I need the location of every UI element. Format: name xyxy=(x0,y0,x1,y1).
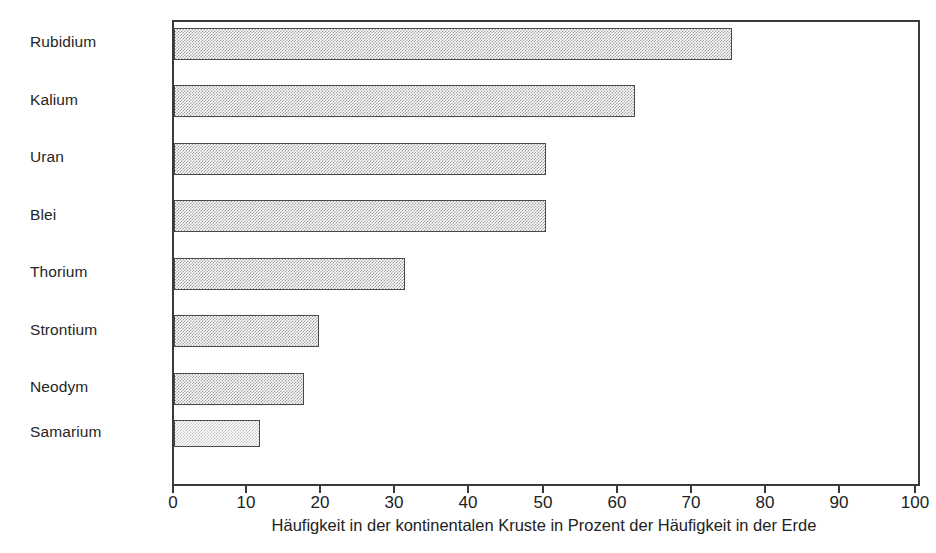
bar-uran xyxy=(174,143,546,175)
chart-figure: Rubidium Kalium Uran Blei Thorium Stront… xyxy=(0,0,936,553)
category-label-kalium: Kalium xyxy=(30,91,166,109)
plot-frame xyxy=(172,20,920,486)
x-ticklabel-70: 70 xyxy=(661,492,721,513)
x-ticklabel-20: 20 xyxy=(290,492,350,513)
x-ticklabel-30: 30 xyxy=(364,492,424,513)
category-axis-labels: Rubidium Kalium Uran Blei Thorium Stront… xyxy=(0,0,166,482)
bar-strontium xyxy=(174,315,319,347)
x-ticklabel-80: 80 xyxy=(735,492,795,513)
x-ticklabel-60: 60 xyxy=(587,492,647,513)
x-ticklabel-100: 100 xyxy=(885,492,936,513)
category-label-thorium: Thorium xyxy=(30,263,166,281)
bar-blei xyxy=(174,200,546,232)
category-label-neodym: Neodym xyxy=(30,378,166,396)
bar-thorium xyxy=(174,258,405,290)
bar-neodym xyxy=(174,373,304,405)
x-axis-title: Häufigkeit in der kontinentalen Kruste i… xyxy=(172,514,916,536)
x-ticklabel-10: 10 xyxy=(216,492,276,513)
category-label-strontium: Strontium xyxy=(30,321,166,339)
category-label-rubidium: Rubidium xyxy=(30,33,166,51)
x-ticklabel-40: 40 xyxy=(438,492,498,513)
bar-kalium xyxy=(174,85,635,117)
bar-samarium xyxy=(174,420,260,447)
x-axis-tick-labels: 0 10 20 30 40 50 60 70 80 90 100 xyxy=(0,492,936,516)
bars-layer xyxy=(174,22,918,484)
category-label-uran: Uran xyxy=(30,148,166,166)
x-ticklabel-50: 50 xyxy=(513,492,573,513)
bar-rubidium xyxy=(174,28,732,60)
category-label-blei: Blei xyxy=(30,206,166,224)
category-label-samarium: Samarium xyxy=(30,423,166,441)
x-ticklabel-0: 0 xyxy=(143,492,203,513)
x-ticklabel-90: 90 xyxy=(809,492,869,513)
